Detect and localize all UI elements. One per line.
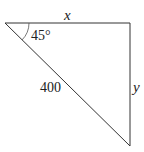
- label-hypotenuse: 400: [40, 80, 61, 95]
- label-x: x: [63, 7, 71, 23]
- triangle-diagram: x 45° 400 y: [0, 0, 144, 152]
- label-angle: 45°: [31, 28, 51, 43]
- angle-arc: [22, 23, 29, 40]
- hypotenuse: [5, 23, 130, 146]
- label-y: y: [131, 79, 140, 95]
